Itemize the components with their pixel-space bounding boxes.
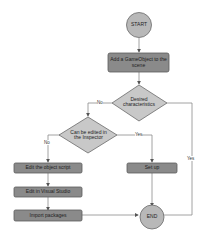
- editable-yes-label: Yes: [135, 132, 142, 137]
- flowchart-canvas: [0, 0, 208, 240]
- desired-no-label: No: [97, 100, 103, 105]
- edit-object-script-label: Edit the object script: [14, 163, 82, 173]
- add-gameobject-label: Add a GameObject to the scene: [110, 54, 167, 71]
- import-packages-label: Import packages: [14, 210, 82, 221]
- end-label: END: [140, 211, 164, 223]
- desired-yes-label: Yes: [187, 156, 194, 161]
- can-be-edited-label: Can be edited in the Inspector: [67, 122, 110, 148]
- start-label: START: [126, 19, 152, 31]
- desired-characteristics-label: Desired characteristics: [117, 92, 161, 112]
- editable-no-label: No: [44, 140, 50, 145]
- set-up-label: Set up: [127, 163, 177, 173]
- edit-visual-studio-label: Edit in Visual Studio: [14, 187, 82, 197]
